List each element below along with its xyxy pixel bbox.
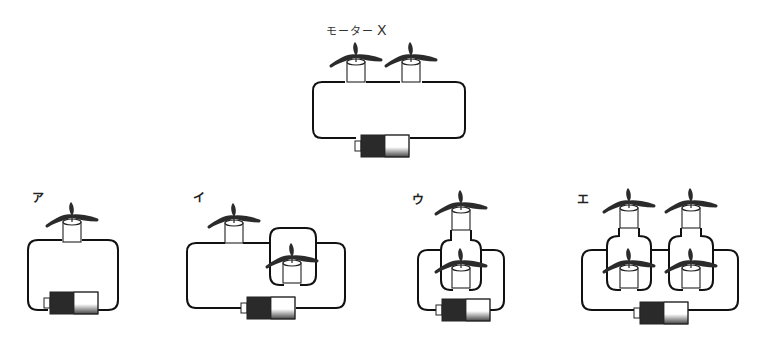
motor-e4 [666, 248, 716, 288]
motor-a [47, 202, 97, 242]
motor-i1 [209, 203, 259, 243]
battery-a [44, 292, 98, 314]
motor-u2 [436, 248, 486, 288]
circuit-e [582, 228, 738, 310]
battery-i [241, 297, 295, 319]
motor-i2 [267, 243, 317, 283]
battery-u [436, 299, 490, 321]
motor-u1 [436, 190, 486, 230]
motor-e2 [604, 248, 654, 288]
motor-x2 [386, 42, 436, 82]
motor-e1 [604, 188, 654, 228]
motor-e3 [666, 188, 716, 228]
circuit-diagrams [0, 0, 766, 345]
motor-x1 [331, 42, 381, 82]
battery-x [355, 135, 409, 157]
reference-circuit-x [313, 82, 465, 138]
battery-e [634, 302, 688, 324]
